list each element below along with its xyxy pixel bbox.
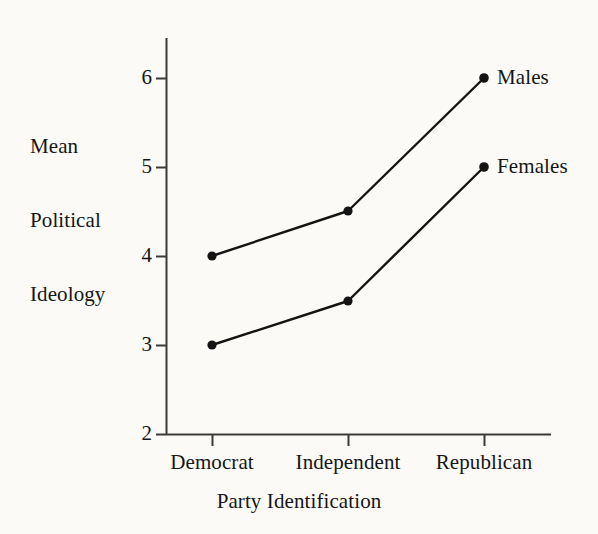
y-tick-label-2: 2 — [118, 421, 152, 446]
data-point-females-independent — [343, 296, 352, 305]
x-axis-ticks — [213, 434, 485, 446]
series-females — [207, 162, 488, 349]
series-males — [207, 73, 488, 260]
y-tick-label-3: 3 — [118, 332, 152, 357]
series-label-females: Females — [497, 154, 568, 179]
y-axis-title: Mean Political Ideology — [30, 84, 105, 356]
y-axis-title-line-2: Political — [30, 208, 105, 233]
data-point-males-democrat — [207, 251, 216, 260]
data-point-males-republican — [479, 73, 489, 83]
line-chart: Mean Political Ideology 6 5 4 3 2 Democr… — [0, 0, 598, 534]
x-axis-title: Party Identification — [0, 489, 598, 514]
data-point-males-independent — [343, 206, 352, 215]
y-axis-ticks — [156, 79, 166, 435]
y-axis-title-line-3: Ideology — [30, 282, 105, 307]
series-label-males: Males — [497, 65, 549, 90]
series-males-line — [212, 78, 484, 256]
data-point-females-republican — [479, 162, 489, 172]
x-tick-label-republican: Republican — [404, 450, 564, 475]
data-point-females-democrat — [207, 340, 216, 349]
y-tick-label-6: 6 — [118, 65, 152, 90]
y-tick-label-4: 4 — [118, 243, 152, 268]
y-axis-title-line-1: Mean — [30, 134, 105, 159]
y-tick-label-5: 5 — [118, 154, 152, 179]
series-females-line — [212, 167, 484, 345]
